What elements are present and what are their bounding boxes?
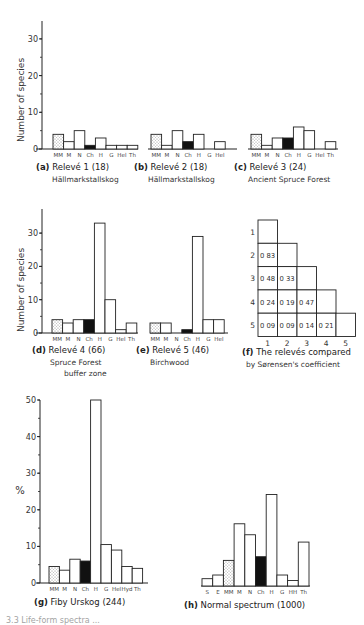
- figure-caption-partial: 3.3 Life-form spectra ...: [6, 616, 100, 625]
- bar-h-th: [298, 542, 309, 586]
- bar-h-e: [213, 575, 224, 586]
- svg-text:E: E: [216, 589, 220, 595]
- svg-text:S: S: [206, 589, 210, 595]
- caption-h-letter: (h): [184, 600, 198, 610]
- bar-h-s: [202, 579, 213, 586]
- svg-text:MM: MM: [224, 589, 234, 595]
- svg-text:G: G: [280, 589, 284, 595]
- svg-text:HH: HH: [289, 589, 297, 595]
- bar-h-mm: [223, 560, 234, 586]
- bar-h-h: [266, 495, 277, 587]
- svg-text:N: N: [248, 589, 252, 595]
- svg-text:H: H: [269, 589, 273, 595]
- chart-h-bars: SEMMMNChHGHHTh: [201, 495, 310, 596]
- bar-h-hh: [288, 581, 299, 586]
- bar-h-g: [277, 575, 288, 586]
- bar-h-n: [245, 535, 256, 586]
- bar-h-ch: [256, 557, 267, 586]
- svg-text:Ch: Ch: [257, 589, 265, 595]
- svg-text:Th: Th: [299, 589, 307, 595]
- caption-h-title: Normal spectrum (1000): [201, 600, 306, 610]
- caption-h: (h) Normal spectrum (1000): [184, 600, 305, 611]
- svg-text:M: M: [237, 589, 242, 595]
- bar-h-m: [234, 524, 245, 586]
